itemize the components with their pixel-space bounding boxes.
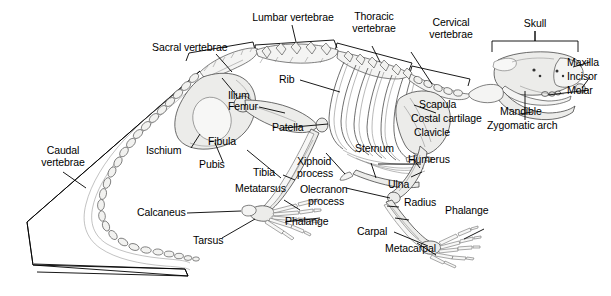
label-phalange-hind: Phalange bbox=[285, 216, 329, 228]
label-cervical-vertebrae-line2: vertebrae bbox=[414, 29, 488, 41]
rat-skeleton-diagram: Lumbar vertebrae Thoracic vertebrae Cerv… bbox=[0, 0, 611, 296]
label-xiphoid-process-line2: process bbox=[297, 168, 333, 180]
label-sternum: Sternum bbox=[355, 143, 394, 155]
label-patella: Patella bbox=[272, 122, 303, 134]
label-sacral-vertebrae: Sacral vertebrae bbox=[152, 42, 227, 54]
label-humerus: Humerus bbox=[408, 154, 450, 166]
label-calcaneus: Calcaneus bbox=[137, 207, 186, 219]
label-scapula: Scapula bbox=[419, 99, 456, 111]
label-incisor: Incisor bbox=[567, 71, 597, 83]
label-zygomatic-arch: Zygomatic arch bbox=[487, 120, 557, 132]
xiphoid-process-bone bbox=[340, 172, 353, 180]
label-mandible: Mandible bbox=[500, 106, 542, 118]
calcaneus-bone bbox=[242, 205, 256, 216]
label-ulna: Ulna bbox=[388, 179, 409, 191]
label-maxilla: Maxilla bbox=[567, 57, 599, 69]
label-pubis: Pubis bbox=[199, 159, 225, 171]
label-skull: Skull bbox=[505, 18, 565, 30]
label-xiphoid-process-line1: Xiphoid bbox=[297, 156, 331, 168]
label-tarsus: Tarsus bbox=[193, 235, 223, 247]
label-clavicle: Clavicle bbox=[414, 127, 450, 139]
label-molar: Molar bbox=[567, 85, 593, 97]
label-lumbar-vertebrae: Lumbar vertebrae bbox=[233, 12, 353, 24]
label-caudal-vertebrae-line2: vertebrae bbox=[20, 157, 106, 169]
label-rib: Rib bbox=[279, 74, 294, 86]
label-radius: Radius bbox=[404, 197, 436, 209]
label-femur: Femur bbox=[228, 101, 258, 113]
label-ischium: Ischium bbox=[146, 145, 181, 157]
label-cervical-vertebrae-line1: Cervical bbox=[414, 17, 488, 29]
label-metacarpal: Metacarpal bbox=[385, 243, 436, 255]
label-fibula: Fibula bbox=[208, 136, 236, 148]
label-carpal: Carpal bbox=[357, 226, 387, 238]
lumbar-vertebrae bbox=[256, 42, 338, 63]
label-thoracic-vertebrae-line1: Thoracic bbox=[337, 11, 411, 23]
label-metatarsus: Metatarsus bbox=[235, 183, 286, 195]
label-tibia: Tibia bbox=[253, 167, 275, 179]
label-olecranon-process-line2: process bbox=[308, 196, 344, 208]
label-olecranon-process-line1: Olecranon bbox=[300, 184, 348, 196]
thoracic-vertebrae bbox=[337, 51, 412, 79]
label-phalange-fore: Phalange bbox=[445, 205, 489, 217]
label-thoracic-vertebrae-line2: vertebrae bbox=[337, 23, 411, 35]
label-costal-cartilage: Costal cartilage bbox=[411, 113, 482, 125]
label-caudal-vertebrae-line1: Caudal bbox=[20, 145, 106, 157]
